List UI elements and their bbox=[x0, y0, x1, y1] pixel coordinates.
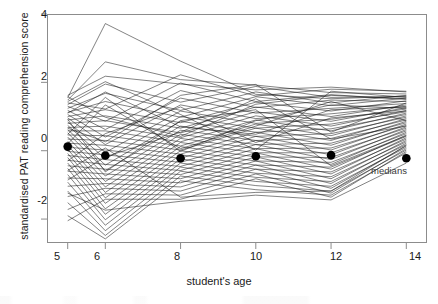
x-tick-label-8: 8 bbox=[162, 250, 192, 262]
x-tick-label-14: 14 bbox=[400, 250, 430, 262]
x-tick-label-5: 5 bbox=[42, 250, 72, 262]
figure-panel: 4 2 0 -2 5 6 8 10 12 14 standardised PAT… bbox=[0, 0, 438, 304]
medians-annotation: medians bbox=[359, 165, 419, 176]
x-tick-label-6: 6 bbox=[82, 250, 112, 262]
plot-frame bbox=[47, 14, 427, 243]
y-axis-title: standardised PAT reading comprehension s… bbox=[18, 6, 30, 246]
x-axis-title: student's age bbox=[149, 275, 289, 287]
x-tick-label-10: 10 bbox=[241, 250, 271, 262]
x-tick-label-12: 12 bbox=[321, 250, 351, 262]
scan-artifact bbox=[0, 296, 438, 304]
